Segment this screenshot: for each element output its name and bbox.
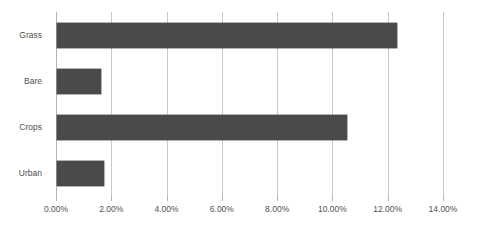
x-axis-tick-label: 12.00% (373, 204, 402, 214)
x-tick-mark (222, 196, 223, 201)
x-tick-mark (388, 196, 389, 201)
x-tick-mark (111, 196, 112, 201)
x-tick-mark (332, 196, 333, 201)
bar-crops[interactable] (57, 115, 347, 140)
bar-row (56, 104, 443, 150)
x-tick-mark (443, 196, 444, 201)
bar-row (56, 12, 443, 58)
x-axis-tick-label: 10.00% (318, 204, 347, 214)
x-axis-tick-label: 4.00% (155, 204, 179, 214)
x-axis-tick-label: 14.00% (429, 204, 458, 214)
y-axis-label-bare: Bare (24, 58, 42, 104)
x-tick-mark (277, 196, 278, 201)
x-axis: 0.00%2.00%4.00%6.00%8.00%10.00%12.00%14.… (56, 196, 443, 226)
plot-area (56, 12, 443, 196)
bar-bare[interactable] (57, 69, 101, 94)
gridline-14.00% (443, 12, 444, 196)
y-axis-label-urban: Urban (19, 150, 42, 196)
x-tick-mark (167, 196, 168, 201)
y-axis-labels: GrassBareCropsUrban (0, 12, 50, 196)
x-tick-mark (56, 196, 57, 201)
bar-row (56, 58, 443, 104)
y-axis-label-grass: Grass (19, 12, 42, 58)
bar-urban[interactable] (57, 161, 104, 186)
x-axis-tick-label: 6.00% (210, 204, 234, 214)
x-axis-tick-label: 0.00% (44, 204, 68, 214)
x-axis-tick-label: 2.00% (99, 204, 123, 214)
bar-chart: GrassBareCropsUrban 0.00%2.00%4.00%6.00%… (0, 0, 478, 235)
bar-grass[interactable] (57, 23, 397, 48)
bars-layer (56, 12, 443, 196)
x-axis-tick-label: 8.00% (265, 204, 289, 214)
bar-row (56, 150, 443, 196)
y-axis-label-crops: Crops (19, 104, 42, 150)
